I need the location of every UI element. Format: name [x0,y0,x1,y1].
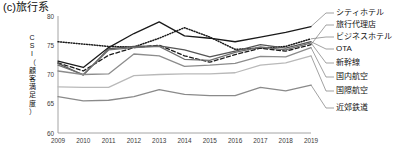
x-axis-tick-label: 2013 [146,137,172,144]
x-axis-tick-label: 2009 [45,137,71,144]
legend-item-label[interactable]: 国際航空 [336,86,368,96]
series-line [58,22,311,68]
x-axis-tick-label: 2010 [70,137,96,144]
x-axis-tick-label: 2018 [273,137,299,144]
legend-item-label[interactable]: 新幹線 [336,58,360,68]
x-axis-tick-label: 2011 [96,137,122,144]
x-axis-tick-label: 2019 [298,137,324,144]
legend-item-label[interactable]: シティホテル [336,8,384,18]
x-axis-tick-label: 2014 [172,137,198,144]
x-axis-tick-label: 2015 [197,137,223,144]
legend-item-label[interactable]: 旅行代理店 [336,20,376,30]
y-axis-tick-label: 80 [38,13,54,20]
series-line [58,42,311,75]
legend-leader-line [311,25,334,45]
legend-leader-line [311,56,334,91]
legend-leader-line [311,48,334,77]
legend-leader-line [311,13,334,27]
y-axis-tick-label: 75 [38,42,54,49]
chart-figure: (c)旅行系 C S I （ 顧 客 満 足 度 ） 8075706560 20… [0,0,408,154]
y-axis-tick-label: 60 [38,130,54,137]
legend-item-label[interactable]: ビジネスホテル [336,32,392,42]
legend-item-label[interactable]: OTA [336,44,352,54]
legend-item-label[interactable]: 国内航空 [336,72,368,82]
y-axis-tick-label: 70 [38,71,54,78]
legend-leader-line [311,37,334,39]
x-axis-tick-label: 2017 [247,137,273,144]
x-axis-tick-label: 2016 [222,137,248,144]
legend-leader-line [311,85,334,108]
series-line [58,56,311,88]
x-axis-tick-label: 2012 [121,137,147,144]
legend-leader-line [311,43,334,63]
legend-item-label[interactable]: 近郊鉄道 [336,103,368,113]
y-axis-tick-label: 65 [38,100,54,107]
